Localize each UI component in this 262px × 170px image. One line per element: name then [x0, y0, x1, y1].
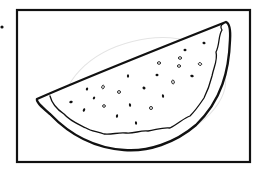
seed — [157, 62, 160, 65]
seed — [178, 57, 181, 60]
stray-dot — [0, 25, 3, 28]
seed — [127, 74, 129, 78]
seed — [118, 91, 121, 94]
seed — [177, 65, 180, 68]
seed — [156, 74, 159, 76]
seed — [103, 105, 106, 108]
seed — [184, 49, 187, 51]
seed — [150, 107, 153, 110]
watermelon-illustration — [0, 0, 262, 170]
seed — [171, 80, 174, 84]
seed — [101, 85, 104, 89]
